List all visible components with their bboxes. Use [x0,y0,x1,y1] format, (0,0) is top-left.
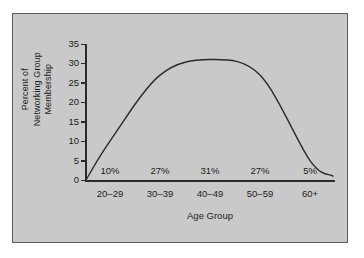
curve-path [86,60,333,180]
x-axis-title: Age Group [85,210,335,221]
data-value-label: 27% [238,165,282,176]
chart-panel: 05101520253035 Percent of Networking Gro… [12,13,348,243]
x-axis-category-label: 60+ [280,188,340,199]
data-value-label: 31% [188,165,232,176]
data-value-label: 27% [138,165,182,176]
plot-area: 05101520253035 Percent of Networking Gro… [13,14,349,244]
data-value-label: 5% [288,165,332,176]
chart-figure: 05101520253035 Percent of Networking Gro… [0,0,364,258]
data-value-label: 10% [88,165,132,176]
